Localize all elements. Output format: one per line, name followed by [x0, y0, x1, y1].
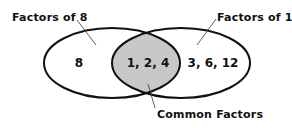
label-factors-of-12: Factors of 12 — [217, 11, 292, 24]
values-factors-of-8-only: 8 — [75, 56, 83, 70]
label-common-factors: Common Factors — [157, 108, 263, 121]
values-common-factors: 1, 2, 4 — [127, 56, 170, 70]
venn-diagram: Factors of 8 Factors of 12 Common Factor… — [0, 0, 292, 128]
label-factors-of-8: Factors of 8 — [12, 11, 88, 24]
values-factors-of-12-only: 3, 6, 12 — [188, 56, 239, 70]
